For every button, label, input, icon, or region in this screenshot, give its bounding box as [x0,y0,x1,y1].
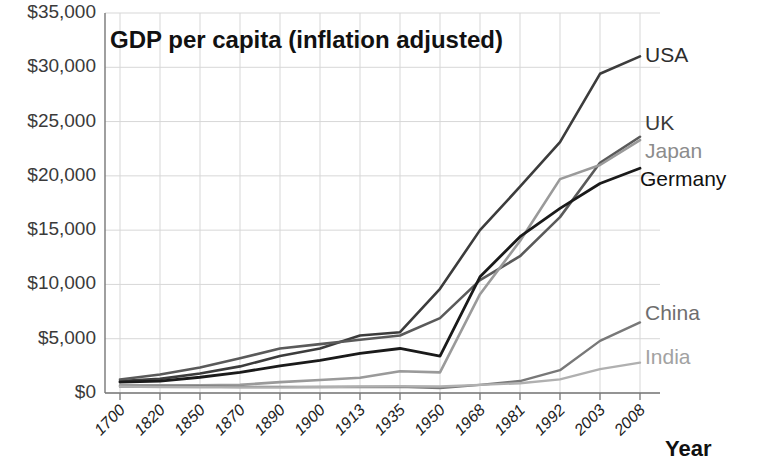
y-axis-tick-label: $20,000 [27,164,96,185]
x-axis-tick-label: 1900 [291,401,328,438]
series-line-usa [120,56,640,381]
series-label-japan: Japan [645,139,702,162]
x-axis-tick-label: 1968 [451,401,488,438]
y-axis-tick-labels: $35,000$30,000$25,000$20,000$15,000$10,0… [27,1,96,402]
series-label-germany: Germany [640,167,727,190]
x-axis-tick-label: 1700 [91,401,128,438]
x-axis-tick-labels: 1700182018501870189019001913193519501968… [91,401,648,439]
x-axis-ticks [120,393,640,400]
series-label-usa: USA [645,43,688,66]
y-axis-tick-label: $5,000 [38,327,96,348]
gdp-per-capita-line-chart: $35,000$30,000$25,000$20,000$15,000$10,0… [0,0,760,469]
x-axis-tick-label: 1981 [491,401,528,438]
chart-container: $35,000$30,000$25,000$20,000$15,000$10,0… [0,0,760,469]
y-axis-tick-label: $0 [75,381,96,402]
series-label-india: India [645,345,691,368]
x-axis-tick-label: 1890 [251,401,288,438]
x-axis-tick-label: 1870 [211,401,248,438]
series-label-china: China [645,301,700,324]
y-axis-tick-label: $35,000 [27,1,96,22]
series-label-uk: UK [645,111,674,134]
x-axis-tick-label: 1992 [531,401,568,438]
x-axis-tick-label: 1935 [371,401,408,438]
x-axis-tick-label: 1820 [131,401,168,438]
x-axis-title: Year [665,436,712,461]
series-labels: USAUKJapanGermanyChinaIndia [640,43,727,368]
gridlines [105,13,660,393]
x-axis-tick-label: 2008 [610,401,648,439]
x-axis-tick-label: 1913 [331,401,368,438]
chart-title: GDP per capita (inflation adjusted) [110,26,503,53]
x-axis-tick-label: 2003 [570,401,608,439]
y-axis-tick-label: $15,000 [27,218,96,239]
y-axis-tick-label: $25,000 [27,110,96,131]
y-axis-tick-label: $10,000 [27,272,96,293]
x-axis-tick-label: 1850 [171,401,208,438]
y-axis-tick-label: $30,000 [27,55,96,76]
series-line-japan [120,140,640,385]
series-line-germany [120,168,640,382]
series-line-uk [120,137,640,380]
x-axis-tick-label: 1950 [411,401,448,438]
